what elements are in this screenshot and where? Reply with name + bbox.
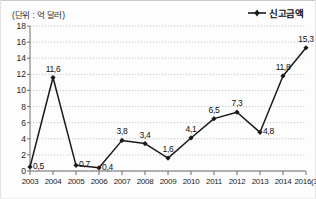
y-axis-tick-label: 8 xyxy=(0,102,26,112)
data-point-label: 3,4 xyxy=(140,130,151,140)
data-point-label: 1,6 xyxy=(163,144,174,154)
x-axis-tick-label: 2008 xyxy=(137,177,154,186)
unit-label: (단위 : 억 달러) xyxy=(12,8,65,20)
data-point xyxy=(50,75,55,80)
x-axis-tick-labels: 2003200420052006200720082009201020112012… xyxy=(30,177,306,193)
data-point-label: 7,3 xyxy=(232,98,243,108)
data-point-label: 11,6 xyxy=(46,64,61,74)
x-axis-tick-label: 2014 xyxy=(275,177,292,186)
y-axis-tick-label: 16 xyxy=(0,37,26,47)
data-point xyxy=(27,164,32,169)
plot-area: 0,511,60,70,43,83,41,64,16,57,34,811,815… xyxy=(30,26,306,171)
chart-legend: 신고금액 xyxy=(248,6,304,20)
line-marker-icon xyxy=(248,8,266,18)
data-point-label: 0,7 xyxy=(79,159,90,169)
y-axis-tick-label: 0 xyxy=(0,166,26,176)
data-point-label: 4,8 xyxy=(263,126,274,136)
x-axis-tick-label: 2009 xyxy=(160,177,177,186)
x-axis-tick-label: 2012 xyxy=(229,177,246,186)
x-axis-tick-label: 2011 xyxy=(206,177,222,186)
y-axis-tick-label: 14 xyxy=(0,53,26,63)
y-axis-tick-label: 10 xyxy=(0,85,26,95)
y-axis-tick-label: 4 xyxy=(0,134,26,144)
top-border xyxy=(0,0,316,1)
x-axis-tick-label: 2013 xyxy=(252,177,269,186)
y-axis-tick-label: 2 xyxy=(0,150,26,160)
bottom-border xyxy=(0,198,316,199)
data-point-label: 15,3 xyxy=(298,34,313,44)
y-axis-tick-labels: 024681012141618 xyxy=(0,26,26,171)
right-border xyxy=(315,0,316,199)
data-point-label: 3,8 xyxy=(117,126,128,136)
data-point-label: 0,4 xyxy=(102,162,113,172)
legend-label: 신고금액 xyxy=(269,6,304,20)
data-point-label: 11,8 xyxy=(276,62,291,72)
line-chart: (단위 : 억 달러) 신고금액 024681012141618 0,511,6… xyxy=(0,0,316,199)
y-axis-tick-label: 12 xyxy=(0,69,26,79)
x-axis-tick-label: 2005 xyxy=(68,177,85,186)
data-point xyxy=(73,163,78,168)
data-point-label: 0,5 xyxy=(33,161,44,171)
y-axis-tick-label: 6 xyxy=(0,118,26,128)
x-axis-tick-label: 2010 xyxy=(183,177,200,186)
data-point-label: 6,5 xyxy=(209,105,220,115)
x-axis-tick-label: 2007 xyxy=(114,177,131,186)
data-point-label: 4,1 xyxy=(186,124,197,134)
y-axis-tick-label: 18 xyxy=(0,21,26,31)
x-axis-tick-label: 2006 xyxy=(91,177,108,186)
x-axis-tick-label: 2004 xyxy=(45,177,62,186)
x-axis-tick-label: 2003 xyxy=(22,177,39,186)
x-axis-tick-label: 2016(3 xyxy=(294,177,316,186)
